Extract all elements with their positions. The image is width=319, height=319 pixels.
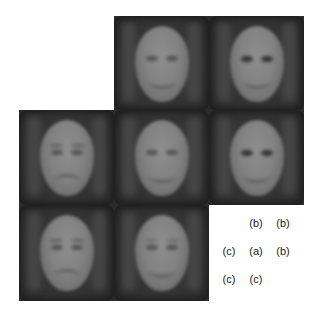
tile-vignette — [114, 110, 209, 205]
tile-vignette — [19, 205, 114, 301]
face-tile-c-bottom-middle — [114, 205, 209, 301]
tile-vignette — [209, 16, 304, 111]
face-tile-a-center — [114, 110, 209, 205]
face-tile-b-top-middle — [114, 16, 209, 111]
legend-label-r1c0: (c) — [217, 246, 241, 257]
legend-label-r2c1: (c) — [244, 274, 268, 285]
tile-vignette — [19, 110, 114, 205]
face-tile-c-bottom-left — [19, 205, 114, 301]
tile-vignette — [209, 110, 304, 205]
legend-label-r1c1: (a) — [244, 246, 268, 257]
face-tile-b-top-right — [209, 16, 304, 111]
legend-label-r0c1: (b) — [244, 218, 268, 229]
face-grid-figure: (b) (b) (c) (a) (b) (c) (c) — [0, 0, 319, 319]
tile-vignette — [114, 16, 209, 111]
tile-vignette — [114, 205, 209, 301]
legend-label-r1c2: (b) — [271, 246, 295, 257]
face-tile-b-middle-right — [209, 110, 304, 205]
legend-label-r2c0: (c) — [217, 274, 241, 285]
face-tile-c-middle-left — [19, 110, 114, 205]
legend-label-r0c2: (b) — [271, 218, 295, 229]
